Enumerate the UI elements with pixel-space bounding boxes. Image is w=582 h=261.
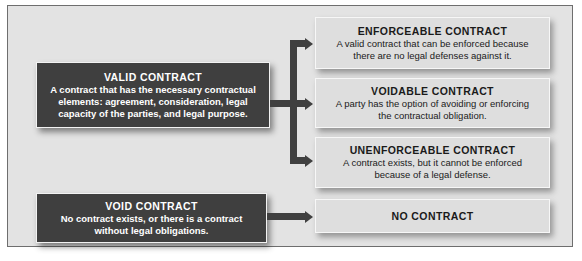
void-contract-description: No contract exists, or there is a contra…: [37, 213, 266, 237]
void-contract-box: VOID CONTRACT No contract exists, or the…: [36, 193, 267, 243]
no-contract-title: NO CONTRACT: [316, 210, 549, 223]
arrow-enforceable-icon: [305, 38, 313, 50]
arrow-unenforceable-shaft: [290, 157, 306, 164]
arrow-no-contract-shaft: [267, 213, 306, 220]
valid-contract-description: A contract that has the necessary contra…: [37, 84, 269, 120]
enforceable-contract-title: ENFORCEABLE CONTRACT: [316, 25, 549, 38]
valid-contract-box: VALID CONTRACT A contract that has the n…: [36, 62, 270, 128]
enforceable-contract-description: A valid contract that can be enforced be…: [316, 38, 549, 62]
arrow-enforceable-shaft: [290, 40, 306, 47]
arrow-no-contract-icon: [305, 211, 313, 223]
valid-connector-vertical: [290, 40, 297, 164]
enforceable-contract-box: ENFORCEABLE CONTRACT A valid contract th…: [315, 17, 550, 69]
valid-contract-title: VALID CONTRACT: [37, 71, 269, 84]
voidable-contract-title: VOIDABLE CONTRACT: [316, 85, 549, 98]
arrow-unenforceable-icon: [305, 155, 313, 167]
arrow-voidable-icon: [305, 98, 313, 110]
unenforceable-contract-description: A contract exists, but it cannot be enfo…: [316, 157, 549, 181]
voidable-contract-box: VOIDABLE CONTRACT A party has the option…: [315, 78, 550, 128]
unenforceable-contract-title: UNENFORCEABLE CONTRACT: [316, 144, 549, 157]
voidable-contract-description: A party has the option of avoiding or en…: [316, 98, 549, 122]
no-contract-box: NO CONTRACT: [315, 199, 550, 233]
unenforceable-contract-box: UNENFORCEABLE CONTRACT A contract exists…: [315, 137, 550, 188]
void-contract-title: VOID CONTRACT: [37, 200, 266, 213]
